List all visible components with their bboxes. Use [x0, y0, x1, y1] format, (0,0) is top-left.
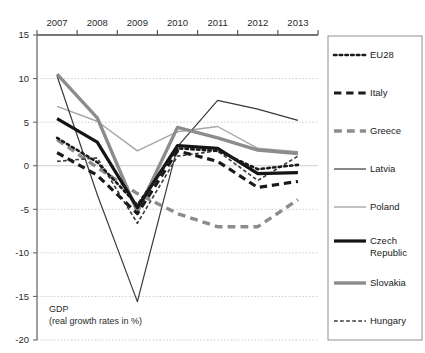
y-tick-label--5: -5 [21, 204, 29, 215]
caption-line-1: GDP [49, 304, 69, 314]
legend-label-latvia: Latvia [370, 163, 396, 174]
y-tick-label-5: 5 [24, 117, 29, 128]
x-tick-label-2013: 2013 [287, 17, 308, 28]
chart-root: 2007200820092010201120122013 151050-5-10… [0, 0, 425, 353]
legend-border [328, 36, 422, 340]
xtick-labels-layer: 2007200820092010201120122013 [47, 17, 309, 28]
x-tick-label-2009: 2009 [127, 17, 148, 28]
y-tick-label-15: 15 [18, 29, 29, 40]
legend-label-greece: Greece [370, 125, 401, 136]
x-tick-label-2007: 2007 [47, 17, 68, 28]
gdp-growth-line-chart: 2007200820092010201120122013 151050-5-10… [0, 0, 425, 353]
chart-svg: 2007200820092010201120122013 151050-5-10… [0, 0, 425, 353]
y-tick-label-10: 10 [18, 73, 29, 84]
legend-label-italy: Italy [370, 87, 388, 98]
legend-label-czech-republic: Czech [370, 235, 397, 246]
legend-label-eu28: EU28 [370, 49, 394, 60]
plot-caption: GDP(real growth rates in %) [49, 304, 142, 326]
series-line-slovakia [57, 74, 298, 212]
y-tick-label--10: -10 [15, 247, 29, 258]
legend-label-czech-republic-line2: Republic [370, 247, 407, 258]
y-tick-label-0: 0 [24, 160, 29, 171]
x-tick-label-2010: 2010 [167, 17, 188, 28]
x-tick-label-2012: 2012 [247, 17, 268, 28]
legend-label-poland: Poland [370, 201, 400, 212]
y-tick-label--15: -15 [15, 291, 29, 302]
legend-box: EU28ItalyGreeceLatviaPolandCzechRepublic… [328, 36, 422, 340]
ytick-labels-layer: 151050-5-10-15-20 [15, 29, 29, 345]
legend-label-slovakia: Slovakia [370, 277, 407, 288]
y-tick-label--20: -20 [15, 334, 29, 345]
x-tick-label-2011: 2011 [207, 17, 227, 28]
x-tick-label-2008: 2008 [87, 17, 108, 28]
series-line-latvia [57, 76, 298, 302]
series-layer [57, 74, 298, 301]
gridlines-layer [37, 79, 318, 340]
caption-line-2: (real growth rates in %) [49, 316, 142, 326]
legend-label-hungary: Hungary [370, 315, 406, 326]
